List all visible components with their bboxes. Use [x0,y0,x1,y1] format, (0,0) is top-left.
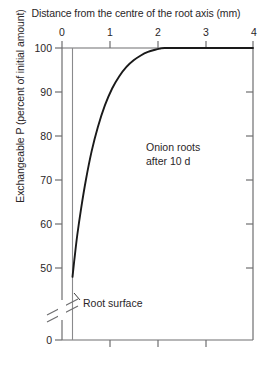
data-curve [73,48,254,277]
axis-break-gap-mask [58,300,66,320]
figure-container: Distance from the centre of the root axi… [0,0,272,379]
plot-area [0,0,272,379]
